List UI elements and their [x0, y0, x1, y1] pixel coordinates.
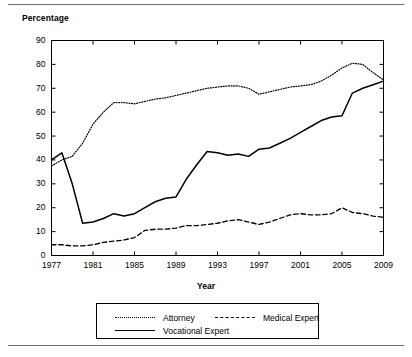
x-tick-label: 1997: [239, 261, 279, 270]
x-tick-label: 1977: [32, 261, 72, 270]
y-tick-label: 60: [24, 108, 46, 117]
y-tick-label: 0: [24, 251, 46, 260]
legend-swatch-attorney: [115, 317, 155, 318]
legend-label-medical-expert: Medical Expert: [263, 313, 319, 323]
x-tick-label: 1989: [156, 261, 196, 270]
legend-swatch-medical-expert: [215, 317, 255, 318]
x-tick-label: 2009: [364, 261, 404, 270]
x-tick-label: 1981: [73, 261, 113, 270]
y-tick-label: 10: [24, 227, 46, 236]
x-tick-label: 2001: [281, 261, 321, 270]
chart-figure: Percentage Year 0102030405060708090 1977…: [0, 0, 412, 357]
y-tick-label: 90: [24, 36, 46, 45]
series-line-medical-expert: [52, 208, 384, 246]
chart-legend: AttorneyMedical ExpertVocational Expert: [96, 303, 319, 339]
y-tick-label: 20: [24, 203, 46, 212]
legend-label-attorney: Attorney: [163, 313, 195, 323]
legend-swatch-vocational-expert: [115, 330, 155, 331]
series-line-vocational-expert: [52, 81, 384, 223]
y-tick-label: 40: [24, 155, 46, 164]
y-tick-label: 30: [24, 179, 46, 188]
y-tick-label: 50: [24, 132, 46, 141]
legend-label-vocational-expert: Vocational Expert: [163, 326, 229, 336]
y-tick-label: 80: [24, 60, 46, 69]
x-tick-label: 1993: [198, 261, 238, 270]
series-line-attorney: [52, 63, 384, 166]
y-tick-label: 70: [24, 84, 46, 93]
x-tick-label: 2005: [322, 261, 362, 270]
x-tick-label: 1985: [115, 261, 155, 270]
